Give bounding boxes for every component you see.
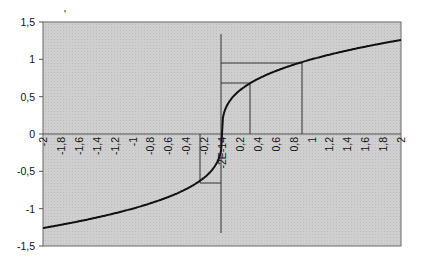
x-tick-label: 0,4: [252, 137, 264, 152]
x-tick-label: -0,4: [180, 137, 192, 155]
x-tick-label: 0,6: [270, 137, 282, 152]
x-tick-label: 1: [306, 137, 318, 143]
y-tick-label: 1: [29, 53, 35, 65]
y-tick-label: -0,5: [17, 165, 35, 177]
y-tick-label: 0: [29, 128, 35, 140]
y-tick-label: -1,5: [17, 240, 35, 252]
x-tick-label: -1,8: [55, 137, 67, 155]
y-tick-label: 0,5: [20, 91, 35, 103]
y-tick-label: -1: [26, 203, 35, 215]
x-tick-label: -0,6: [162, 137, 174, 155]
x-tick-label: 1,6: [359, 137, 371, 152]
x-tick-label: -1: [127, 137, 139, 146]
x-tick-label: 0,2: [234, 137, 246, 152]
x-tick-label: -1,6: [73, 137, 85, 155]
x-tick-label: -0,8: [144, 137, 156, 155]
x-tick-label: 1,2: [323, 137, 335, 152]
stray-mark: ': [64, 9, 66, 20]
chart: 1,510,50-0,5-1-1,5 -2-1,8-1,6-1,4-1,2-1-…: [0, 0, 423, 264]
x-tick-label: 0,8: [288, 137, 300, 152]
y-tick-label: 1,5: [20, 16, 35, 28]
x-tick-label: -1,2: [109, 137, 121, 155]
x-tick-label: 2: [395, 137, 407, 143]
x-tick-label: -1,4: [91, 137, 103, 155]
x-tick-label: 1,8: [377, 137, 389, 152]
x-tick-label: 1,4: [341, 137, 353, 152]
y-axis: 1,510,50-0,5-1-1,5: [17, 16, 43, 252]
x-tick-label: -2: [37, 137, 49, 146]
